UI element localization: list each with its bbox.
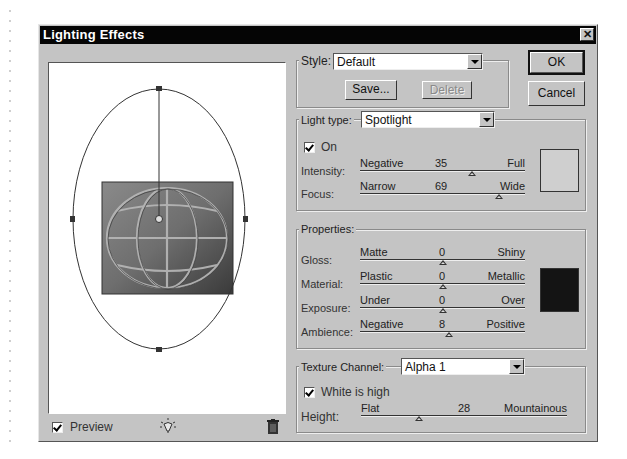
top-handle (156, 86, 162, 91)
intensity-thumb[interactable] (468, 171, 476, 176)
window-title: Lighting Effects (43, 27, 144, 42)
intensity-value: 35 (435, 157, 447, 169)
focus-label: Focus: (301, 188, 334, 200)
exposure-min-label: Under (360, 294, 390, 306)
chevron-down-icon[interactable] (467, 54, 482, 69)
trash-icon[interactable] (266, 419, 280, 435)
style-select[interactable]: Default (333, 53, 483, 70)
delete-style-label: Delete (430, 83, 465, 97)
right-handle (243, 216, 248, 222)
light-bulb-icon[interactable] (159, 418, 177, 436)
preview-checkbox[interactable] (52, 422, 63, 433)
preview-label: Preview (70, 420, 113, 434)
ambience-label: Ambience: (301, 326, 353, 338)
light-type-select[interactable]: Spotlight (361, 111, 495, 128)
light-type-value: Spotlight (365, 113, 412, 127)
gloss-slider[interactable]: Matte 0 Shiny (360, 246, 525, 264)
cancel-button[interactable]: Cancel (528, 81, 585, 106)
intensity-slider[interactable]: Negative 35 Full (360, 157, 525, 175)
cancel-label: Cancel (538, 86, 575, 100)
gloss-min-label: Matte (360, 246, 388, 258)
save-style-label: Save... (352, 82, 389, 96)
lighting-effects-dialog: Lighting Effects ✕ (38, 24, 598, 442)
light-type-label: Light type: (299, 114, 354, 126)
gloss-thumb[interactable] (439, 260, 447, 265)
texture-channel-value: Alpha 1 (405, 360, 446, 374)
chevron-down-icon[interactable] (509, 359, 524, 374)
light-on-checkbox[interactable] (304, 142, 315, 153)
delete-style-button[interactable]: Delete (422, 81, 472, 99)
white-is-high-checkbox[interactable] (304, 387, 315, 398)
material-min-label: Plastic (360, 270, 392, 282)
ambience-slider[interactable]: Negative 8 Positive (360, 318, 525, 336)
exposure-label: Exposure: (301, 302, 351, 314)
focus-max-label: Wide (500, 180, 525, 192)
texture-channel-label: Texture Channel: (299, 361, 386, 373)
exposure-value: 0 (439, 294, 445, 306)
height-label: Height: (301, 410, 339, 424)
height-thumb[interactable] (415, 416, 423, 421)
ok-button[interactable]: OK (528, 50, 585, 75)
ambience-max-label: Positive (486, 318, 525, 330)
close-icon: ✕ (583, 28, 592, 40)
close-button[interactable]: ✕ (580, 28, 594, 41)
exposure-max-label: Over (501, 294, 525, 306)
light-ellipse-diagram[interactable] (49, 63, 285, 413)
intensity-max-label: Full (507, 157, 525, 169)
height-min-label: Flat (361, 402, 379, 414)
dotted-margin (9, 6, 11, 446)
ambience-value: 8 (439, 318, 445, 330)
focus-value: 69 (435, 180, 447, 192)
material-value: 0 (439, 270, 445, 282)
focus-min-label: Narrow (360, 180, 395, 192)
material-max-label: Metallic (488, 270, 525, 282)
light-on-label: On (321, 140, 337, 154)
gloss-label: Gloss: (301, 254, 332, 266)
bottom-handle (156, 347, 162, 352)
focus-slider[interactable]: Narrow 69 Wide (360, 180, 525, 198)
intensity-min-label: Negative (360, 157, 403, 169)
style-select-value: Default (337, 55, 375, 69)
height-max-label: Mountainous (504, 402, 567, 414)
material-thumb[interactable] (439, 284, 447, 289)
style-label: Style: (299, 54, 333, 68)
material-slider[interactable]: Plastic 0 Metallic (360, 270, 525, 288)
save-style-button[interactable]: Save... (345, 80, 397, 100)
exposure-thumb[interactable] (439, 308, 447, 313)
left-handle (70, 216, 75, 222)
ambience-min-label: Negative (360, 318, 403, 330)
properties-label: Properties: (299, 223, 356, 235)
ambient-color-swatch[interactable] (540, 268, 579, 312)
ok-label: OK (548, 55, 565, 69)
exposure-slider[interactable]: Under 0 Over (360, 294, 525, 312)
light-center-handle (156, 216, 163, 223)
material-label: Material: (301, 278, 343, 290)
gloss-max-label: Shiny (497, 246, 525, 258)
height-slider[interactable]: Flat 28 Mountainous (361, 402, 567, 420)
intensity-label: Intensity: (301, 165, 345, 177)
white-is-high-label: White is high (321, 385, 390, 399)
chevron-down-icon[interactable] (479, 112, 494, 127)
light-color-swatch[interactable] (540, 149, 579, 192)
ambience-thumb[interactable] (445, 332, 453, 337)
height-value: 28 (458, 402, 470, 414)
gloss-value: 0 (439, 246, 445, 258)
texture-channel-select[interactable]: Alpha 1 (401, 358, 525, 375)
preview-toolbar: Preview (48, 417, 286, 437)
preview-canvas[interactable] (48, 62, 286, 414)
title-bar[interactable]: Lighting Effects ✕ (40, 26, 596, 44)
texture-group (296, 366, 586, 433)
focus-thumb[interactable] (495, 194, 503, 199)
